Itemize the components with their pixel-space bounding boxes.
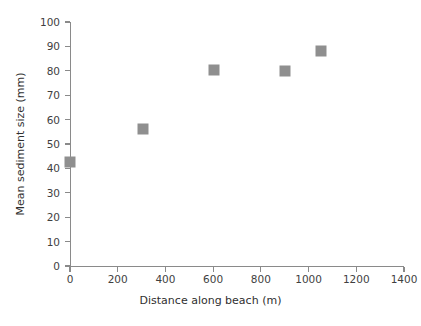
data-point-marker [209,64,220,75]
y-axis-tick [65,265,70,266]
scatter-chart-figure: 0200400600800100012001400 01020304050607… [0,0,421,326]
y-axis-tick-label: 50 [47,138,60,150]
y-axis-tick [65,119,70,120]
x-axis-label: Distance along beach (m) [0,294,421,307]
x-axis-tick-label: 800 [251,273,271,285]
y-axis-tick-label: 70 [47,89,60,101]
y-axis-tick [65,168,70,169]
y-axis-tick-label: 90 [47,40,60,52]
x-axis-tick-label: 0 [67,273,74,285]
x-axis-tick-label: 1000 [295,273,322,285]
x-axis-tick [403,267,404,272]
y-axis-tick [65,21,70,22]
y-axis-tick [65,241,70,242]
plot-area [70,22,404,266]
x-axis-tick-label: 400 [155,273,175,285]
y-axis-tick-label: 40 [47,162,60,174]
data-point-marker [137,124,148,135]
y-axis-label: Mean sediment size (mm) [14,22,30,266]
y-axis-tick-label: 20 [47,211,60,223]
y-axis-tick [65,46,70,47]
y-axis-tick [65,70,70,71]
x-axis-tick [213,267,214,272]
y-axis-tick-label: 0 [53,260,60,272]
y-axis-tick [65,143,70,144]
x-axis-tick-label: 1400 [391,273,418,285]
x-axis-tick [260,267,261,272]
y-axis-tick-label: 60 [47,114,60,126]
y-axis-tick-label: 10 [47,236,60,248]
x-axis-line [70,266,404,267]
y-axis-tick [65,95,70,96]
data-point-marker [315,46,326,57]
x-axis-tick [165,267,166,272]
x-axis-tick-label: 600 [203,273,223,285]
x-axis-tick [308,267,309,272]
x-axis-tick-label: 1200 [343,273,370,285]
y-axis-tick [65,217,70,218]
y-axis-tick-label: 80 [47,65,60,77]
y-axis-tick [65,192,70,193]
data-point-marker [65,157,76,168]
x-axis-tick [117,267,118,272]
y-axis-tick-label: 30 [47,187,60,199]
x-axis-tick [356,267,357,272]
x-axis-tick-label: 200 [108,273,128,285]
y-axis-line [70,22,71,266]
x-axis-tick [69,267,70,272]
data-point-marker [279,65,290,76]
y-axis-tick-label: 100 [40,16,60,28]
